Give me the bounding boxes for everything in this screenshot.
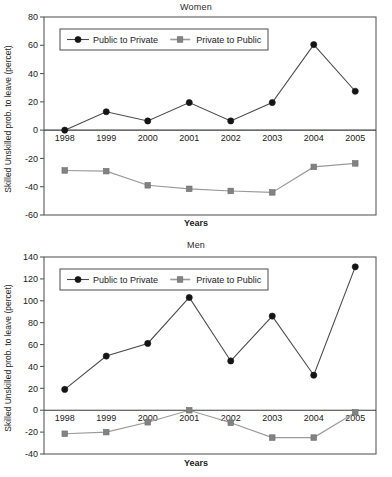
data-point[interactable]: Public to Private 1998: 19	[62, 386, 68, 392]
data-point[interactable]: Public to Private 2001: 19.5	[186, 99, 192, 105]
y-tick-label: 40	[28, 69, 38, 79]
data-point[interactable]: Public to Private 2003: 19.5	[269, 99, 275, 105]
y-tick-label: 40	[28, 362, 38, 372]
data-point[interactable]: Public to Private 1999: 13	[103, 109, 109, 115]
y-tick-label: 120	[23, 274, 38, 284]
y-tick-label: 20	[28, 384, 38, 394]
y-tick-label: -20	[25, 154, 38, 164]
data-point[interactable]: Public to Private 1999: 49.5	[103, 353, 109, 359]
chart-men: Men Skilled Unskilled prob. to leave (pe…	[0, 238, 392, 477]
data-point[interactable]: Private to Public 2002: -11.5	[228, 420, 234, 426]
x-tick-label: 2002	[221, 133, 241, 143]
y-tick-label: -20	[25, 427, 38, 437]
y-tick-label: -40	[25, 182, 38, 192]
data-point[interactable]: Private to Public 2004: -25	[311, 435, 317, 441]
data-point[interactable]: Private to Public 1998: -28.5	[62, 168, 68, 174]
data-point[interactable]: Public to Private 2004: 32	[311, 372, 317, 378]
y-tick-label: 0	[33, 405, 38, 415]
legend-label-private-to-public: Private to Public	[196, 275, 262, 285]
x-axis-label-men: Years	[0, 458, 392, 468]
y-tick-label: 80	[28, 12, 38, 22]
legend: Public to PrivatePrivate to Public	[60, 29, 268, 50]
plot-area-men: 140120100806040200-20-401998199920002001…	[0, 238, 392, 477]
data-point[interactable]: Private to Public 2001: -41.5	[186, 186, 192, 192]
data-point[interactable]: Private to Public 2000: -39	[145, 183, 151, 189]
data-point[interactable]: Private to Public 2001: 0	[186, 407, 192, 413]
data-point[interactable]: Public to Private 2001: 103	[186, 294, 192, 300]
data-point[interactable]: Public to Private 2002: 45	[228, 358, 234, 364]
y-tick-label: 60	[28, 40, 38, 50]
x-tick-label: 2001	[179, 133, 199, 143]
legend-label-private-to-public: Private to Public	[196, 35, 262, 45]
data-point[interactable]: Public to Private 2004: 60.5	[311, 41, 317, 47]
y-tick-label: 100	[23, 296, 38, 306]
data-point[interactable]: Private to Public 2004: -26	[311, 164, 317, 170]
legend-marker-public-to-private	[75, 276, 81, 282]
data-point[interactable]: Private to Public 1998: -21.5	[62, 431, 68, 437]
legend-label-public-to-private: Public to Private	[93, 35, 158, 45]
x-tick-label: 2003	[262, 133, 282, 143]
x-tick-label: 2004	[304, 133, 324, 143]
y-tick-label: 20	[28, 97, 38, 107]
data-point[interactable]: Private to Public 2000: -11	[145, 419, 151, 425]
series-line-public-to-private	[65, 45, 356, 131]
x-tick-label: 1999	[96, 133, 116, 143]
data-point[interactable]: Public to Private 2000: 6.5	[145, 118, 151, 124]
data-point[interactable]: Public to Private 2000: 61	[145, 340, 151, 346]
data-point[interactable]: Private to Public 2003: -25	[269, 435, 275, 441]
legend-marker-private-to-public	[177, 277, 183, 283]
x-tick-label: 2001	[179, 413, 199, 423]
legend-marker-private-to-public	[177, 37, 183, 43]
data-point[interactable]: Private to Public 1999: -20	[103, 429, 109, 435]
chart-women: Women Skilled Unskilled prob. to leave (…	[0, 0, 392, 238]
x-tick-label: 1999	[96, 413, 116, 423]
legend-marker-public-to-private	[75, 36, 81, 42]
data-point[interactable]: Private to Public 2005: -2	[352, 410, 358, 416]
data-point[interactable]: Public to Private 2002: 6.5	[228, 118, 234, 124]
y-tick-label: 0	[33, 125, 38, 135]
data-point[interactable]: Private to Public 2002: -43	[228, 188, 234, 194]
data-point[interactable]: Public to Private 2003: 86	[269, 313, 275, 319]
x-tick-label: 1998	[55, 133, 75, 143]
x-tick-label: 2004	[304, 413, 324, 423]
data-point[interactable]: Public to Private 1998: 0	[62, 127, 68, 133]
data-point[interactable]: Public to Private 2005: 131	[352, 264, 358, 270]
data-point[interactable]: Private to Public 1999: -29	[103, 168, 109, 174]
legend: Public to PrivatePrivate to Public	[60, 269, 268, 290]
y-tick-label: 60	[28, 340, 38, 350]
x-tick-label: 1998	[55, 413, 75, 423]
x-axis-label-women: Years	[0, 218, 392, 228]
legend-label-public-to-private: Public to Private	[93, 275, 158, 285]
data-point[interactable]: Private to Public 2003: -44	[269, 190, 275, 196]
data-point[interactable]: Private to Public 2005: -23.5	[352, 161, 358, 167]
y-tick-label: 140	[23, 252, 38, 262]
y-tick-label: 80	[28, 318, 38, 328]
x-tick-label: 2003	[262, 413, 282, 423]
data-point[interactable]: Public to Private 2005: 27.5	[352, 88, 358, 94]
x-tick-label: 2000	[138, 133, 158, 143]
x-tick-label: 2005	[345, 133, 365, 143]
plot-area-women: 806040200-20-40-601998199920002001200220…	[0, 0, 392, 238]
